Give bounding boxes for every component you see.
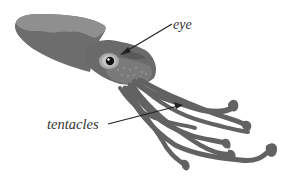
head <box>85 40 156 85</box>
label-eye: eye <box>173 18 192 32</box>
label-tentacles: tentacles <box>47 117 99 132</box>
squid-illustration <box>0 0 297 179</box>
eye-pointer-arrow <box>120 24 172 55</box>
eye <box>99 53 119 69</box>
squid-diagram: eye tentacles <box>0 0 297 179</box>
